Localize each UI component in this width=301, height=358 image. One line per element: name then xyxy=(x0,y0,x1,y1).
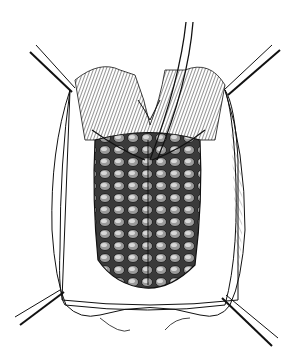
retractor-bottom-left xyxy=(15,290,64,325)
retractor-top-left xyxy=(30,45,75,92)
retractor-bottom-right xyxy=(222,295,278,346)
upper-anatomy xyxy=(75,67,225,140)
exposed-tissue xyxy=(92,130,205,288)
illustration-canvas xyxy=(0,0,301,358)
retractor-top-right xyxy=(224,45,280,95)
surgical-illustration xyxy=(0,0,301,358)
